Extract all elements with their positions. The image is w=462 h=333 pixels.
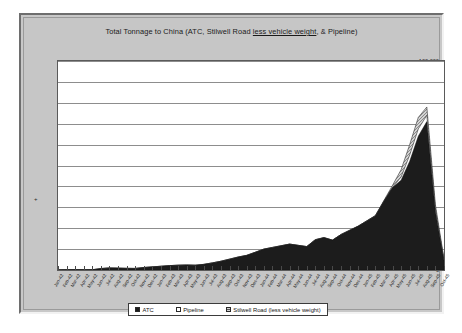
x-axis-tick: [92, 266, 93, 270]
legend-label-stilwell-road: Stilwell Road (less vehicle weight): [233, 307, 320, 313]
legend-swatch-atc-icon: [135, 307, 140, 312]
x-axis-tick: [307, 266, 308, 270]
x-axis-tick: [170, 266, 171, 270]
x-axis-tick: [135, 266, 136, 270]
x-axis-tick: [367, 266, 368, 270]
x-axis-tick: [238, 266, 239, 270]
x-axis-tick: [350, 266, 351, 270]
x-axis-tick: [332, 266, 333, 270]
x-axis-tick: [435, 266, 436, 270]
x-axis-tick: [358, 266, 359, 270]
x-axis-tick: [410, 266, 411, 270]
x-axis-tick: [212, 266, 213, 270]
chart-title-before: Total Tonnage to China (ATC, Stilwell Ro…: [105, 27, 252, 36]
legend-label-pipeline: Pipeline: [183, 307, 204, 313]
legend-item-stilwell-road: Stilwell Road (less vehicle weight): [226, 307, 321, 313]
chart-title-after: , & Pipeline): [316, 27, 357, 36]
y-axis-marker: +: [34, 196, 38, 202]
x-axis-tick: [298, 266, 299, 270]
x-axis-tick: [272, 266, 273, 270]
x-axis-tick: [84, 266, 85, 270]
chart-title-emphasis: less vehicle weight: [253, 27, 317, 36]
x-axis-tick: [324, 266, 325, 270]
x-axis-tick: [444, 266, 445, 270]
x-axis-tick: [221, 266, 222, 270]
series-area-atc: [58, 122, 444, 270]
x-axis-tick: [152, 266, 153, 270]
x-axis-tick: [255, 266, 256, 270]
x-axis-tick: [109, 266, 110, 270]
chart-legend: ATC Pipeline Stilwell Road (less vehicle…: [128, 303, 328, 316]
legend-label-atc: ATC: [143, 307, 154, 313]
legend-item-atc: ATC: [135, 307, 154, 313]
x-axis-tick: [58, 266, 59, 270]
legend-swatch-pipeline-icon: [176, 307, 181, 312]
x-axis-tick: [118, 266, 119, 270]
x-axis-tick: [67, 266, 68, 270]
x-axis-tick: [264, 266, 265, 270]
chart-window: Total Tonnage to China (ATC, Stilwell Ro…: [19, 13, 444, 314]
x-axis-tick: [178, 266, 179, 270]
chart-title: Total Tonnage to China (ATC, Stilwell Ro…: [24, 27, 439, 36]
x-axis-tick: [290, 266, 291, 270]
x-axis-tick: [384, 266, 385, 270]
x-axis-tick: [204, 266, 205, 270]
chart-panel: Total Tonnage to China (ATC, Stilwell Ro…: [23, 17, 440, 310]
legend-swatch-stilwell-road-icon: [226, 307, 231, 312]
x-axis-tick: [375, 266, 376, 270]
plot-area: [57, 60, 445, 271]
x-axis-tick: [230, 266, 231, 270]
x-axis-tick: [101, 266, 102, 270]
x-axis-tick: [75, 266, 76, 270]
legend-item-pipeline: Pipeline: [176, 307, 204, 313]
x-axis-tick: [144, 266, 145, 270]
x-axis-tick: [161, 266, 162, 270]
x-axis-tick: [127, 266, 128, 270]
area-series-group: [58, 61, 444, 270]
x-axis-tick: [341, 266, 342, 270]
x-axis-tick: [281, 266, 282, 270]
x-axis-tick: [427, 266, 428, 270]
x-axis-tick: [393, 266, 394, 270]
x-axis-tick: [195, 266, 196, 270]
x-axis-tick: [247, 266, 248, 270]
x-axis-tick: [401, 266, 402, 270]
x-axis-tick: [418, 266, 419, 270]
x-axis-tick: [187, 266, 188, 270]
x-axis-tick: [315, 266, 316, 270]
